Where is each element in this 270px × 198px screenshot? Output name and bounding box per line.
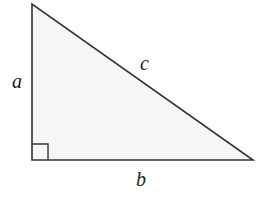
triangle-shape [32, 4, 253, 160]
right-triangle-diagram: a b c [0, 0, 270, 198]
side-label-c-hypotenuse: c [140, 52, 149, 74]
diagram-canvas: a b c [0, 0, 270, 198]
side-label-a: a [12, 70, 22, 92]
side-label-b: b [136, 168, 146, 190]
